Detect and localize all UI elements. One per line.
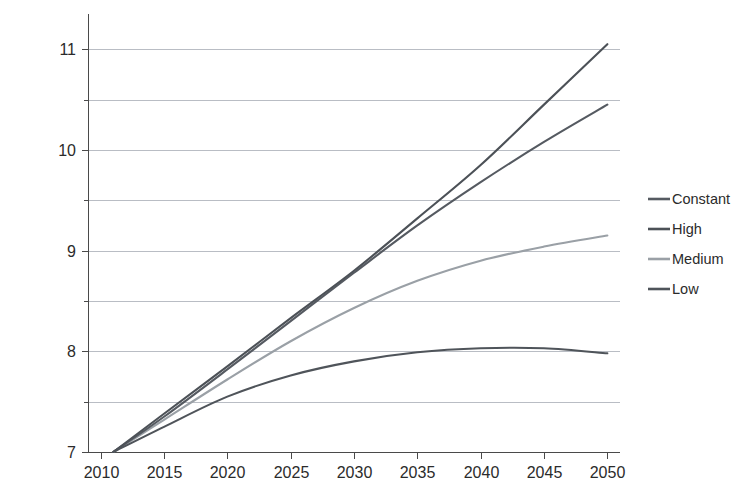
x-axis-tick-labels: 201020152020202520302035204020452050 bbox=[84, 464, 626, 481]
line-chart-canvas: 201020152020202520302035204020452050 789… bbox=[0, 0, 744, 486]
y-tick-label: 8 bbox=[67, 343, 76, 360]
legend-label-constant: Constant bbox=[672, 191, 730, 207]
x-tick-label: 2035 bbox=[400, 464, 436, 481]
x-tick-label: 2010 bbox=[84, 464, 120, 481]
y-tick-label: 10 bbox=[58, 142, 76, 159]
x-tick-label: 2050 bbox=[590, 464, 626, 481]
y-tick-label: 9 bbox=[67, 243, 76, 260]
y-axis-tick-labels: 7891011 bbox=[58, 41, 76, 461]
x-tick-label: 2015 bbox=[147, 464, 183, 481]
y-tick-label: 7 bbox=[67, 444, 76, 461]
legend-label-medium: Medium bbox=[672, 251, 724, 267]
x-tick-label: 2045 bbox=[527, 464, 563, 481]
series-line-constant bbox=[113, 105, 607, 452]
x-tick-label: 2040 bbox=[464, 464, 500, 481]
legend-label-low: Low bbox=[672, 281, 699, 297]
gridlines bbox=[88, 50, 620, 453]
chart-legend: ConstantHighMediumLow bbox=[648, 191, 730, 297]
data-series bbox=[113, 44, 607, 452]
y-tick-label: 11 bbox=[59, 41, 76, 58]
x-tick-label: 2030 bbox=[337, 464, 373, 481]
x-tick-label: 2025 bbox=[274, 464, 310, 481]
chart-figure: Billion 20102015202020252030203520402045… bbox=[0, 0, 744, 486]
legend-label-high: High bbox=[672, 221, 702, 237]
x-tick-label: 2020 bbox=[210, 464, 246, 481]
axis-lines bbox=[82, 14, 620, 459]
